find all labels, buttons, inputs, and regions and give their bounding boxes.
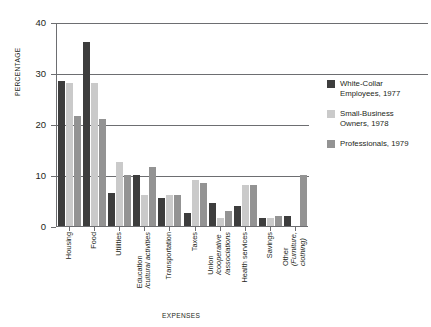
x-tick-mark [69,226,70,231]
legend-item: Professionals, 1979 [327,139,431,149]
x-tick-mark [220,226,221,231]
bar [275,216,282,226]
x-tick-label: Food [90,232,98,249]
bar [267,218,274,226]
legend-swatch [327,110,335,118]
x-label-cell: Utilities [106,232,131,316]
legend-label: Small-BusinessOwners, 1978 [340,109,394,128]
x-tick-label: Union/cooperative/associations [207,232,232,275]
x-label-cell: Food [81,232,106,316]
y-tick-label: 20 [24,120,46,130]
bar [234,206,241,226]
bar-group [258,23,283,226]
x-tick-mark [144,226,145,231]
x-tick-mark [195,226,196,231]
x-tick-label: Housing [64,232,72,259]
x-label-cell: Savings [258,232,283,316]
y-axis-title: PERCENTAGE [14,48,21,96]
bar-groups [57,23,308,226]
bar [300,175,307,226]
bar [58,81,65,226]
bar [141,195,148,226]
y-tick-label: 10 [24,171,46,181]
x-tick-label: Other(Furniture,clothing) [283,232,308,266]
legend-item: White-CollarEmployees, 1977 [327,79,431,98]
bar [250,185,257,226]
bar [209,203,216,226]
bar [108,193,115,226]
x-label-cell: Housing [56,232,81,316]
bar [149,167,156,226]
x-tick-label: Taxes [190,232,198,251]
legend: White-CollarEmployees, 1977Small-Busines… [327,79,431,160]
bar [225,211,232,226]
bar-group [283,23,308,226]
x-label-cell: Education/cultural activities [132,232,157,316]
x-tick-mark [119,226,120,231]
x-tick-mark [94,226,95,231]
x-label-cell: Union/cooperative/associations [207,232,232,316]
bar [158,198,165,226]
x-label-cell: Transportation [157,232,182,316]
bar [74,116,81,226]
plot-area [56,23,308,227]
bar [217,218,224,226]
bar-group [132,23,157,226]
x-label-cell: Taxes [182,232,207,316]
x-tick-label: Savings [266,232,274,258]
x-label-cell: Health services [232,232,257,316]
x-tick-label: Education/cultural activities [136,232,153,288]
bar [184,213,191,226]
bar-group [107,23,132,226]
y-tick-mark [51,227,56,228]
bar [133,175,140,226]
x-tick-mark [169,226,170,231]
bar-group [233,23,258,226]
legend-label: Professionals, 1979 [340,139,408,149]
x-tick-mark [270,226,271,231]
bar [99,119,106,226]
bar-group [182,23,207,226]
legend-swatch [327,140,335,148]
legend-swatch [327,80,335,88]
bar-group [57,23,82,226]
bar-chart: PERCENTAGE 010203040 HousingFoodUtilitie… [0,0,431,327]
bar-group [157,23,182,226]
bar [200,183,207,226]
x-tick-mark [295,226,296,231]
bar-group [208,23,233,226]
bar [174,195,181,226]
bar-group [82,23,107,226]
legend-label: White-CollarEmployees, 1977 [340,79,400,98]
y-tick-label: 0 [24,222,46,232]
bar [83,42,90,226]
x-tick-label: Health services [241,232,249,283]
bar [66,83,73,226]
bar [242,185,249,226]
x-tick-label: Utilities [115,232,123,256]
x-label-cell: Other(Furniture,clothing) [283,232,308,316]
bar [284,216,291,226]
x-axis-tick-labels: HousingFoodUtilitiesEducation/cultural a… [56,232,308,316]
bar [192,180,199,226]
bar [116,162,123,226]
legend-item: Small-BusinessOwners, 1978 [327,109,431,128]
x-axis-title: EXPENSES [162,312,200,319]
bar [124,175,131,226]
bar [91,83,98,226]
y-tick-label: 30 [24,69,46,79]
bar [259,218,266,226]
x-tick-label: Transportation [165,232,173,279]
y-tick-label: 40 [24,18,46,28]
bar [166,195,173,226]
x-tick-mark [245,226,246,231]
